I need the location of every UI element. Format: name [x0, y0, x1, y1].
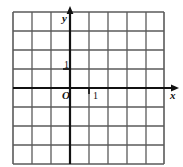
- coordinate-grid-canvas: [0, 0, 183, 167]
- axes: [13, 6, 179, 164]
- y-axis-arrowhead: [67, 6, 74, 14]
- y-axis-tick-label-1: 1: [64, 60, 69, 70]
- x-axis-label: x: [170, 90, 176, 101]
- x-axis-tick-label-1: 1: [93, 91, 98, 101]
- origin-label: O: [62, 90, 70, 101]
- coordinate-grid-figure: y x O 1 1: [0, 0, 183, 167]
- y-axis-label: y: [62, 13, 67, 24]
